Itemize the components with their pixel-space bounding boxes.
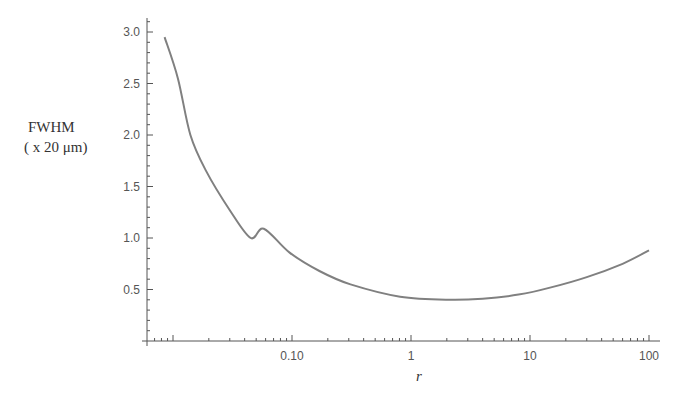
y-axis-label: FWHM ( x 20 μm)	[24, 119, 87, 156]
x-ticks: 0.10110100	[155, 335, 660, 363]
y-tick-label: 1.5	[123, 180, 140, 194]
y-tick-label: 1.0	[123, 231, 140, 245]
x-tick-label: 1	[408, 349, 415, 363]
x-tick-label: 10	[523, 349, 537, 363]
axes: 0.51.01.52.02.53.0 0.10110100	[123, 18, 660, 363]
y-label-line1: FWHM	[28, 119, 75, 135]
x-tick-label: 100	[639, 349, 659, 363]
x-axis-label: r	[416, 368, 422, 384]
y-tick-label: 2.0	[123, 128, 140, 142]
y-ticks: 0.51.01.52.02.53.0	[123, 22, 153, 331]
y-label-line2: ( x 20 μm)	[24, 139, 87, 156]
y-tick-label: 3.0	[123, 25, 140, 39]
x-tick-label: 0.10	[280, 349, 304, 363]
fwhm-vs-r-chart: 0.51.01.52.02.53.0 0.10110100 FWHM ( x 2…	[0, 0, 693, 404]
y-tick-label: 0.5	[123, 283, 140, 297]
y-tick-label: 2.5	[123, 77, 140, 91]
fwhm-curve	[165, 37, 649, 300]
